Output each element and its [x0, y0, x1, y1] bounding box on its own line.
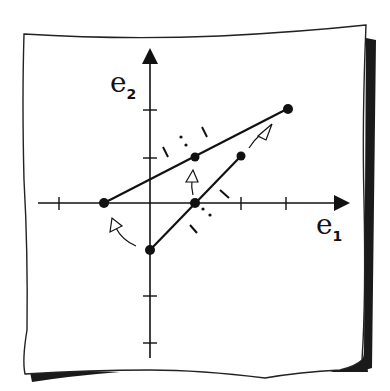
midpoint-mark-dot — [184, 143, 187, 146]
point-e — [191, 153, 200, 162]
point-f — [283, 104, 293, 114]
point-b — [145, 245, 155, 255]
point-d — [237, 152, 246, 161]
x-axis-label: e1 — [316, 208, 342, 244]
y-axis-label: e2 — [110, 66, 136, 102]
point-a — [99, 198, 109, 208]
diagram-canvas — [0, 0, 390, 391]
point-c — [190, 198, 200, 208]
midpoint-mark-dot — [208, 213, 211, 216]
midpoint-mark-dot — [179, 135, 182, 138]
midpoint-mark-dot — [201, 207, 204, 210]
